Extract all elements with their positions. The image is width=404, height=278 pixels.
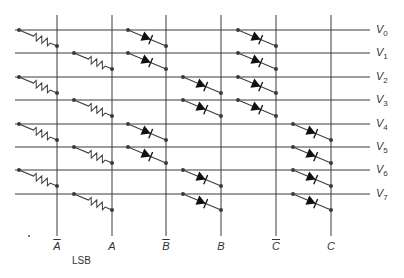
row-label-v5: V5: [376, 141, 388, 155]
row-label-v4: V4: [376, 118, 388, 132]
diode-icon: [291, 142, 333, 167]
column-label-b: B: [214, 241, 228, 252]
column-label-not-a: A: [50, 241, 64, 252]
column-label-not-b: B: [159, 241, 173, 252]
row-label-v7: V7: [376, 188, 388, 202]
diode-icon: [291, 189, 333, 214]
row-label-v3: V3: [376, 94, 388, 108]
diode-icon: [236, 95, 278, 120]
diode-icon: [181, 165, 223, 190]
decoder-matrix-diagram: [0, 0, 404, 278]
row-label-v6: V6: [376, 164, 388, 178]
row-label-v0: V0: [376, 24, 388, 38]
diode-icon: [126, 119, 168, 144]
column-label-not-c: C: [269, 241, 283, 252]
diode-icon: [181, 189, 223, 214]
column-label-c: C: [324, 241, 338, 252]
row-label-v2: V2: [376, 71, 388, 85]
row-label-v1: V1: [376, 47, 388, 61]
diode-icon: [291, 165, 333, 190]
diode-icon: [126, 48, 168, 73]
diode-icon: [236, 72, 278, 97]
stray-dot: [28, 235, 30, 237]
diode-icon: [291, 119, 333, 144]
diode-icon: [181, 95, 223, 120]
lsb-label: LSB: [72, 256, 91, 266]
diode-icon: [236, 48, 278, 73]
diode-icon: [126, 142, 168, 167]
diode-icon: [181, 72, 223, 97]
diode-icon: [236, 25, 278, 50]
diode-icon: [126, 25, 168, 50]
column-label-a: A: [105, 241, 119, 252]
